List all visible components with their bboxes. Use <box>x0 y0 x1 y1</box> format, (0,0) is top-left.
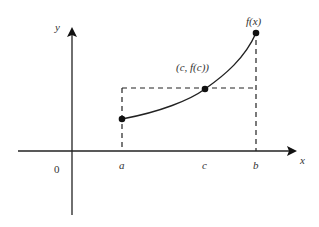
tick-label-a: a <box>119 159 125 171</box>
c-fc-label: (c, f(c)) <box>176 61 209 74</box>
origin-label: 0 <box>54 163 60 175</box>
fx-label: f(x) <box>246 15 262 28</box>
point-a <box>119 116 126 123</box>
mean-value-diagram: y x 0 a c b f(x) (c, f(c)) <box>0 0 319 227</box>
x-axis-label: x <box>299 154 305 166</box>
point-b-fx <box>253 30 260 37</box>
tick-label-c: c <box>202 159 207 171</box>
function-curve <box>122 33 256 119</box>
point-c-fc <box>202 86 209 93</box>
tick-label-b: b <box>253 159 259 171</box>
y-axis-label: y <box>54 21 60 33</box>
